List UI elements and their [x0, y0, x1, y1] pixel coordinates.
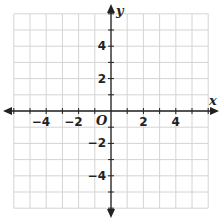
y-tick-label: −2 [88, 136, 106, 150]
y-tick-label: −4 [88, 169, 106, 183]
y-axis-label: y [115, 3, 125, 18]
x-axis-left-arrow-icon [3, 107, 12, 115]
x-tick-label: 4 [172, 115, 180, 129]
y-tick-label: 4 [98, 39, 106, 53]
y-axis-top-arrow-icon [107, 4, 115, 13]
origin-label: O [96, 113, 108, 128]
y-tick-label: 2 [98, 72, 106, 86]
x-tick-label: 2 [139, 115, 147, 129]
x-tick-label: −4 [32, 115, 50, 129]
y-axis-bottom-arrow-icon [107, 209, 115, 218]
coordinate-plane: x y O −4−224 42−2−4 [0, 0, 224, 221]
x-axis-label: x [208, 93, 217, 108]
x-axis-right-arrow-icon [210, 107, 219, 115]
x-tick-label: −2 [64, 115, 82, 129]
